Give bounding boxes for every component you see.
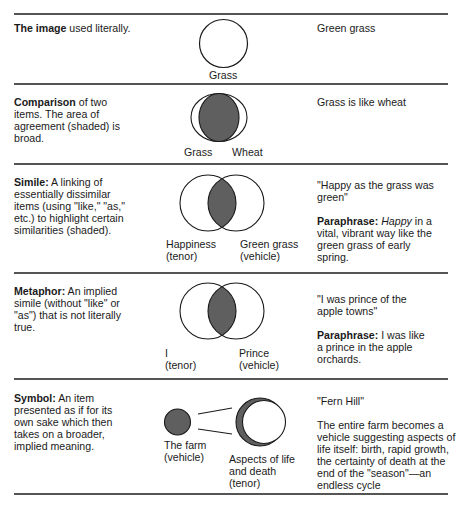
diagram-broad-overlap bbox=[190, 93, 250, 145]
diagram-label-grass: Grass bbox=[209, 69, 237, 81]
diagram-single-circle bbox=[199, 19, 249, 69]
example-text: Green grass bbox=[317, 22, 375, 34]
term-label: Comparison bbox=[14, 96, 76, 108]
diagram-label-vehicle: The farm (vehicle) bbox=[164, 439, 206, 463]
term-label: Metaphor: bbox=[14, 285, 65, 297]
definition-cell: Metaphor: An implied simile (without "li… bbox=[14, 285, 126, 333]
term-label: The image bbox=[14, 22, 66, 34]
definition-text: used literally. bbox=[66, 22, 130, 34]
divider-3 bbox=[14, 272, 448, 274]
example-cell: "Happy as the grass was green" Paraphras… bbox=[317, 179, 442, 263]
example-text: Grass is like wheat bbox=[317, 96, 406, 108]
example-cell: Green grass bbox=[317, 22, 457, 34]
term-label: Symbol: bbox=[14, 392, 56, 404]
term-label: Simile: bbox=[14, 176, 49, 188]
explanation: The entire farm becomes a vehicle sugges… bbox=[317, 419, 457, 491]
example-quote: "I was prince of the apple towns" bbox=[317, 293, 432, 317]
divider-bottom bbox=[14, 493, 448, 495]
example-cell: Grass is like wheat bbox=[317, 96, 457, 108]
diagram-label-wheat: Wheat bbox=[232, 146, 263, 158]
diagram-label-tenor: Aspects of life and death (tenor) bbox=[229, 453, 299, 489]
diagram-narrow-overlap bbox=[179, 282, 265, 342]
example-quote: "Fern Hill" bbox=[317, 395, 457, 407]
diagram-label-tenor: I (tenor) bbox=[165, 347, 196, 371]
paraphrase: Paraphrase: I was like a prince in the a… bbox=[317, 329, 432, 365]
divider-2 bbox=[14, 163, 448, 165]
diagram-label-tenor: Happiness (tenor) bbox=[166, 238, 216, 262]
example-quote: "Happy as the grass was green" bbox=[317, 179, 442, 203]
divider-1 bbox=[14, 83, 448, 85]
diagram-label-vehicle: Green grass (vehicle) bbox=[240, 238, 298, 262]
diagram-narrow-overlap bbox=[180, 174, 266, 234]
definition-cell: Symbol: An item presented as if for its … bbox=[14, 392, 126, 452]
definition-cell: Comparison of two items. The area of agr… bbox=[14, 96, 134, 144]
definition-cell: Simile: A linking of essentially dissimi… bbox=[14, 176, 126, 236]
diagram-label-grass: Grass bbox=[184, 146, 212, 158]
definition-cell: The image used literally. bbox=[14, 22, 134, 34]
divider-4 bbox=[14, 378, 448, 380]
diagram-label-vehicle: Prince (vehicle) bbox=[239, 347, 279, 371]
divider-top bbox=[14, 13, 448, 15]
example-cell: "I was prince of the apple towns" Paraph… bbox=[317, 293, 432, 365]
example-cell: "Fern Hill" The entire farm becomes a ve… bbox=[317, 395, 457, 491]
paraphrase: Paraphrase: Happy in a vital, vibrant wa… bbox=[317, 215, 442, 263]
